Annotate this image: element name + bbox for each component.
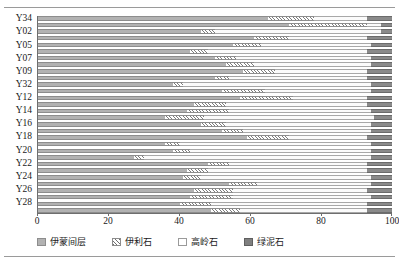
bar-segment-0 <box>38 56 215 61</box>
bar-segment-0 <box>38 16 268 21</box>
bar-segment-0 <box>38 149 173 154</box>
bar-segment-0 <box>38 76 215 81</box>
y-axis-tick-label: Y05 <box>16 41 32 51</box>
chart-figure: Y34Y02Y05Y07Y09Y32Y12Y14Y16Y18Y20Y22Y24Y… <box>0 0 399 266</box>
bar-segment-3 <box>371 56 392 61</box>
bar-segment-1 <box>187 168 208 173</box>
bar-segment-1 <box>222 89 264 94</box>
bar-segment-2 <box>289 36 367 41</box>
legend-item: 高岭石 <box>178 237 218 247</box>
bar-row <box>38 122 392 127</box>
legend-item-label: 伊蒙间层 <box>50 237 86 247</box>
y-axis-tick-label: Y12 <box>16 93 32 103</box>
bar-segment-3 <box>371 195 392 200</box>
bar-row <box>38 195 392 200</box>
bar-row <box>38 175 392 180</box>
bar-segment-0 <box>38 195 190 200</box>
bar-segment-0 <box>38 142 165 147</box>
bar-segment-2 <box>261 43 371 48</box>
x-axis-tick-label: 100 <box>385 216 399 227</box>
bar-segment-3 <box>371 129 392 134</box>
bar-segment-3 <box>371 142 392 147</box>
bar-segment-2 <box>293 96 367 101</box>
bar-segment-2 <box>257 182 370 187</box>
bar-segment-0 <box>38 89 222 94</box>
bar-segment-1 <box>229 182 257 187</box>
bar-segment-1 <box>183 175 201 180</box>
bar-segment-3 <box>367 188 392 193</box>
bar-segment-3 <box>371 149 392 154</box>
y-axis-tick-label: Y34 <box>16 15 32 25</box>
bar-segment-2 <box>144 155 371 160</box>
bar-row <box>38 49 392 54</box>
bar-segment-0 <box>38 36 254 41</box>
figure-top-rule <box>4 7 395 8</box>
bar-row <box>38 155 392 160</box>
bar-segment-2 <box>289 135 367 140</box>
y-axis-tick-label: Y02 <box>16 28 32 38</box>
bar-row <box>38 16 392 21</box>
bar-segment-0 <box>38 62 226 67</box>
bar-row <box>38 129 392 134</box>
y-axis-tick-label: Y07 <box>16 54 32 64</box>
bar-segment-1 <box>201 122 226 127</box>
bar-segment-3 <box>381 29 392 34</box>
bar-row <box>38 69 392 74</box>
legend-item-label: 伊利石 <box>125 237 152 247</box>
bar-segment-0 <box>38 122 201 127</box>
x-axis-tick-label: 20 <box>103 216 113 227</box>
bar-segment-2 <box>229 162 367 167</box>
bar-segment-1 <box>254 36 289 41</box>
bar-segment-0 <box>38 43 233 48</box>
bar-segment-1 <box>201 29 215 34</box>
bar-row <box>38 36 392 41</box>
bar-segment-0 <box>38 129 222 134</box>
bar-row <box>38 182 392 187</box>
bar-row <box>38 109 392 114</box>
x-axis-tick-label: 80 <box>316 216 326 227</box>
bar-segment-3 <box>367 76 392 81</box>
bar-segment-1 <box>173 82 184 87</box>
bar-row <box>38 62 392 67</box>
bar-segment-3 <box>367 36 392 41</box>
bar-segment-2 <box>204 115 374 120</box>
figure-bottom-rule <box>4 256 395 257</box>
y-axis-tick-label: Y14 <box>16 106 32 116</box>
bar-segment-3 <box>367 162 392 167</box>
bar-row <box>38 102 392 107</box>
bar-segment-3 <box>371 109 392 114</box>
bar-segment-0 <box>38 182 229 187</box>
bar-segment-3 <box>367 202 392 207</box>
bar-segment-0 <box>38 175 183 180</box>
bar-segment-1 <box>233 43 261 48</box>
bar-segment-1 <box>165 115 204 120</box>
bar-segment-2 <box>275 69 367 74</box>
bar-segment-3 <box>367 49 392 54</box>
y-axis-tick-label: Y28 <box>16 198 32 208</box>
bar-segment-2 <box>208 49 367 54</box>
bar-segment-2 <box>208 168 367 173</box>
bar-segment-0 <box>38 202 180 207</box>
bar-segment-1 <box>194 188 233 193</box>
bar-segment-2 <box>254 62 371 67</box>
bar-segment-0 <box>38 49 190 54</box>
bar-segment-3 <box>371 82 392 87</box>
x-axis-tick-labels: 020406080100 <box>37 216 392 230</box>
bar-segment-2 <box>265 89 371 94</box>
bar-segment-2 <box>233 195 371 200</box>
bar-segment-2 <box>314 16 367 21</box>
y-axis-tick-label: Y18 <box>16 133 32 143</box>
bar-segment-3 <box>367 135 392 140</box>
bar-series-container <box>38 16 392 213</box>
bar-segment-1 <box>268 16 314 21</box>
bar-row <box>38 162 392 167</box>
bar-segment-3 <box>367 96 392 101</box>
x-axis-tick-label: 40 <box>174 216 184 227</box>
bar-segment-3 <box>367 168 392 173</box>
bar-row <box>38 23 392 28</box>
y-axis-tick-labels: Y34Y02Y05Y07Y09Y32Y12Y14Y16Y18Y20Y22Y24Y… <box>0 16 35 213</box>
bar-segment-2 <box>215 29 381 34</box>
bar-segment-1 <box>215 56 236 61</box>
y-axis-tick-label: Y26 <box>16 185 32 195</box>
bar-segment-2 <box>183 82 371 87</box>
